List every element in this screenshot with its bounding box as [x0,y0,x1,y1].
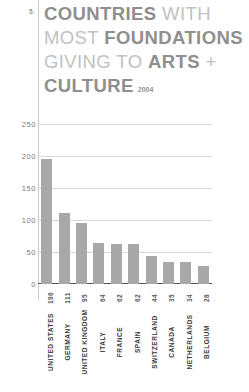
bar-cell [108,124,125,284]
title-word-arts: ARTS [148,51,200,72]
category-label-group: 196UNITED STATES [38,286,55,392]
y-axis-tick-label: 100 [2,216,36,225]
category-label-group: 44SWITZERLAND [142,286,159,392]
bar[interactable] [93,243,104,284]
bar-cell [55,124,72,284]
bar-cell [125,124,142,284]
bar-chart: 250200150100500 [0,118,249,298]
title-line-3: GIVING TO ARTS + [44,50,249,74]
category-name-label: ITALY [99,332,106,352]
bar-value-label: 95 [81,294,88,302]
bar[interactable] [163,262,174,284]
title-words-giving-to: GIVING TO [44,51,148,72]
category-label-group: 35CANADA [160,286,177,392]
category-name-label: BELGIUM [203,325,210,359]
bar[interactable] [180,262,191,284]
category-name-label: UNITED STATES [47,313,54,371]
title-word-countries: COUNTRIES [44,3,157,24]
title-line-4: CULTURE2004 [44,74,249,102]
category-name-label: SPAIN [134,331,141,353]
bar-value-label: 64 [99,294,106,302]
bar-series [38,124,212,284]
category-axis-labels: 196UNITED STATES111GERMANY95UNITED KINGD… [38,286,212,392]
bar-value-label: 111 [64,292,71,303]
title-plus-sign: + [200,51,217,72]
y-axis-tick-label: 0 [2,280,36,289]
category-name-label: SWITZERLAND [151,315,158,368]
category-label-group: 34NETHERLANDS [177,286,194,392]
bar-cell [38,124,55,284]
title-line-2: MOST FOUNDATIONS [44,26,249,50]
bar[interactable] [76,223,87,284]
bar-cell [73,124,90,284]
category-label-group: 64ITALY [90,286,107,392]
bar-cell [195,124,212,284]
bar-value-label: 62 [116,294,123,302]
page-title: COUNTRIES WITH MOST FOUNDATIONS GIVING T… [44,2,249,102]
bar-value-label: 34 [186,294,193,302]
bar-value-label: 44 [151,294,158,302]
title-word-with: WITH [157,3,211,24]
title-line-1: COUNTRIES WITH [44,2,249,26]
bar[interactable] [198,266,209,284]
title-word-most: MOST [44,27,104,48]
category-name-label: UNITED KINGDOM [81,309,88,374]
category-label-group: 62FRANCE [108,286,125,392]
bar-value-label: 62 [134,294,141,302]
bar-value-label: 196 [47,292,54,304]
rank-number: 5. [29,8,34,15]
category-label-group: 28BELGIUM [195,286,212,392]
category-name-label: CANADA [168,326,175,357]
title-word-culture: CULTURE [44,75,134,96]
y-axis: 250200150100500 [0,124,36,284]
bar-cell [177,124,194,284]
title-year: 2004 [138,86,154,93]
y-axis-tick-label: 50 [2,248,36,257]
bar[interactable] [111,244,122,284]
bar[interactable] [128,244,139,284]
category-label-group: 62SPAIN [125,286,142,392]
title-word-foundations: FOUNDATIONS [104,27,243,48]
category-label-group: 95UNITED KINGDOM [73,286,90,392]
bar-cell [160,124,177,284]
bar-cell [90,124,107,284]
y-axis-tick-label: 150 [2,184,36,193]
y-axis-tick-label: 200 [2,152,36,161]
category-name-label: NETHERLANDS [186,314,193,369]
bar-value-label: 35 [168,294,175,302]
bar-cell [142,124,159,284]
category-name-label: GERMANY [64,323,71,360]
bar[interactable] [59,213,70,284]
category-name-label: FRANCE [116,327,123,357]
infographic-panel: 5. COUNTRIES WITH MOST FOUNDATIONS GIVIN… [0,0,249,392]
category-label-group: 111GERMANY [55,286,72,392]
bar[interactable] [146,256,157,284]
y-axis-tick-label: 250 [2,120,36,129]
bar-value-label: 28 [203,294,210,302]
bar[interactable] [41,159,52,284]
